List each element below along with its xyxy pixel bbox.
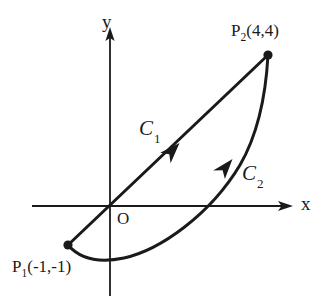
curve-diagram-figure: y x O P2(4,4) P1(-1,-1) C1 C2	[0, 0, 321, 306]
point-p2-coords: (4,4)	[246, 21, 279, 40]
curve-label-c2: C2	[242, 163, 263, 187]
curve-c1-subscript: 1	[154, 131, 161, 146]
point-p1-coords: (-1,-1)	[27, 257, 71, 276]
curve-c2-subscript: 2	[257, 176, 264, 191]
point-p2-marker	[263, 50, 272, 59]
point-p2-subscript: 2	[240, 31, 246, 43]
y-axis-label: y	[102, 12, 112, 31]
point-label-p2: P2(4,4)	[231, 22, 279, 43]
point-p1-marker	[63, 240, 72, 249]
point-label-p1: P1(-1,-1)	[12, 258, 71, 279]
x-axis-label: x	[301, 194, 311, 213]
curve-c1-name: C	[139, 116, 153, 140]
point-p1-subscript: 1	[21, 267, 27, 279]
curve-c2-path	[68, 55, 268, 260]
origin-label: O	[117, 210, 129, 227]
curve-c2-arrowhead	[213, 159, 232, 179]
curve-c1-arrowhead	[160, 143, 179, 163]
curve-c2-name: C	[242, 161, 256, 185]
curve-label-c1: C1	[139, 118, 160, 142]
